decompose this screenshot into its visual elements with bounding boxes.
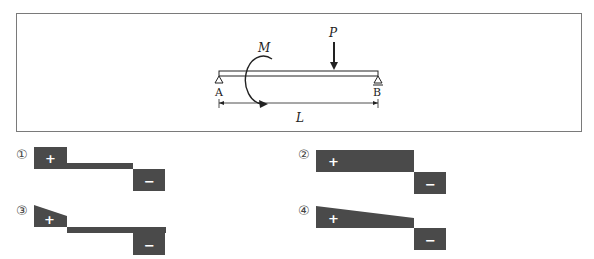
length-dimension (219, 99, 378, 108)
load-label: P (328, 26, 338, 40)
option-1-minus: − (144, 174, 155, 189)
option-4-number[interactable]: ④ (298, 203, 310, 218)
support-b-icon (373, 76, 383, 85)
option-3-diagram[interactable]: + − (34, 205, 166, 255)
option-1-number[interactable]: ① (16, 147, 28, 162)
moment-label: M (257, 41, 271, 55)
support-a-icon (215, 76, 223, 83)
option-4-diagram[interactable]: + − (316, 206, 446, 250)
option-1-plus: + (45, 151, 56, 166)
option-2-diagram[interactable]: + − (316, 150, 446, 194)
diagram-canvas: A B M P L + − ① + − ② + − (0, 0, 594, 259)
option-2-plus: + (328, 154, 339, 169)
option-3-plus: + (44, 212, 55, 227)
load-arrow-icon (330, 42, 338, 70)
length-label: L (295, 111, 304, 125)
support-a-label: A (214, 86, 224, 99)
option-4-minus: − (425, 233, 436, 248)
option-3-number[interactable]: ③ (16, 203, 28, 218)
option-4-plus: + (328, 211, 339, 226)
option-3-minus: − (144, 238, 155, 253)
option-2-minus: − (425, 177, 436, 192)
beam (219, 71, 378, 76)
moment-arrow-icon (245, 56, 272, 108)
option-1-diagram[interactable]: + − (34, 147, 165, 191)
option-2-number[interactable]: ② (298, 147, 310, 162)
support-b-label: B (373, 86, 381, 99)
